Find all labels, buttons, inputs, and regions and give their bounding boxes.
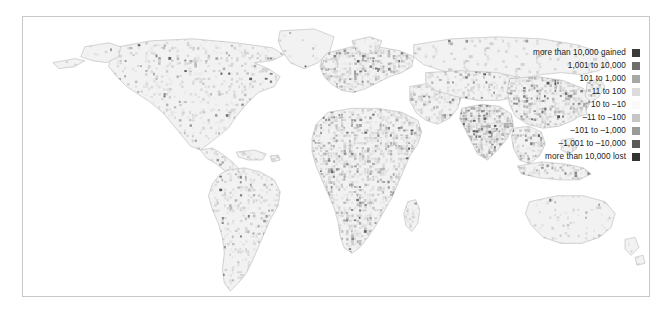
- legend-label: more than 10,000 lost: [545, 150, 626, 163]
- legend-row: –11 to –100: [500, 111, 640, 124]
- legend-row: 11 to 100: [500, 85, 640, 98]
- legend-row: 1,001 to 10,000: [500, 59, 640, 72]
- legend-swatch: [632, 153, 640, 161]
- legend-swatch: [632, 101, 640, 109]
- legend-swatch: [632, 75, 640, 83]
- legend-swatch: [632, 114, 640, 122]
- legend-row: –101 to –1,000: [500, 124, 640, 137]
- landmass-madagascar: [404, 200, 423, 234]
- legend-row: –1,001 to –10,000: [500, 137, 640, 150]
- world-population-change-figure: more than 10,000 gained1,001 to 10,00010…: [0, 0, 670, 315]
- landmass-north-america: [109, 39, 286, 153]
- legend-label: more than 10,000 gained: [533, 46, 626, 59]
- landmass-new-zealand: [625, 237, 646, 265]
- legend-label: –11 to –100: [582, 111, 626, 124]
- legend-swatch: [632, 62, 640, 70]
- legend-row: more than 10,000 gained: [500, 46, 640, 59]
- legend-row: 10 to –10: [500, 98, 640, 111]
- legend-row: more than 10,000 lost: [500, 150, 640, 163]
- legend-swatch: [632, 88, 640, 96]
- landmass-australia: [525, 196, 615, 246]
- legend-swatch: [632, 49, 640, 57]
- legend-row: 101 to 1,000: [500, 72, 640, 85]
- legend-label: 101 to 1,000: [579, 72, 626, 85]
- legend-label: 1,001 to 10,000: [568, 59, 626, 72]
- population-change-legend: more than 10,000 gained1,001 to 10,00010…: [500, 46, 640, 163]
- legend-label: 10 to –10: [591, 98, 626, 111]
- landmass-south-america: [208, 168, 281, 293]
- legend-label: –1,001 to –10,000: [559, 137, 626, 150]
- landmass-africa: [312, 108, 424, 256]
- legend-label: 11 to 100: [592, 85, 626, 98]
- legend-swatch: [632, 140, 640, 148]
- landmass-caribbean: [236, 150, 280, 163]
- legend-label: –101 to –1,000: [570, 124, 626, 137]
- landmass-base: [525, 196, 615, 244]
- landmass-base: [208, 168, 280, 291]
- legend-swatch: [632, 127, 640, 135]
